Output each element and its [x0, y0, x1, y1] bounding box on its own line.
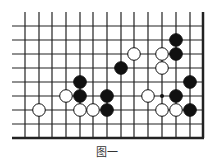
stones-layer: [33, 34, 197, 117]
black-stone: [170, 90, 183, 103]
markers-layer: [160, 94, 164, 98]
black-stone: [184, 76, 197, 89]
black-stone: [74, 90, 87, 103]
white-stone: [156, 104, 169, 117]
white-stone: [156, 62, 169, 75]
white-stone: [74, 104, 87, 117]
black-stone: [115, 62, 128, 75]
white-stone: [33, 104, 46, 117]
point-marker-dot: [160, 94, 164, 98]
black-stone: [170, 34, 183, 47]
black-stone: [74, 76, 87, 89]
go-board-diagram: [0, 0, 217, 162]
black-stone: [184, 104, 197, 117]
board-grid: [12, 12, 204, 138]
white-stone: [128, 48, 141, 61]
figure-caption: 图一: [96, 146, 118, 159]
white-stone: [60, 90, 73, 103]
white-stone: [170, 104, 183, 117]
white-stone: [87, 104, 100, 117]
white-stone: [156, 48, 169, 61]
black-stone: [170, 48, 183, 61]
white-stone: [142, 90, 155, 103]
black-stone: [101, 104, 114, 117]
black-stone: [101, 90, 114, 103]
